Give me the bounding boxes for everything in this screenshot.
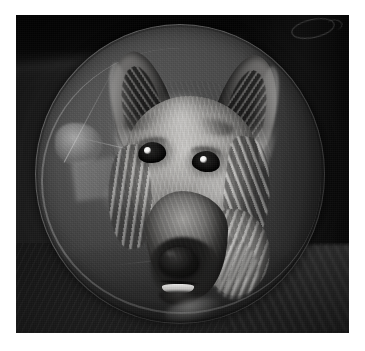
page-canvas xyxy=(0,0,365,351)
nose-highlight xyxy=(164,250,176,257)
eye-catchlight-right xyxy=(200,156,207,163)
dog-head xyxy=(104,41,279,321)
eye-catchlight-left xyxy=(144,147,151,154)
dog-cone-photograph xyxy=(16,15,349,333)
